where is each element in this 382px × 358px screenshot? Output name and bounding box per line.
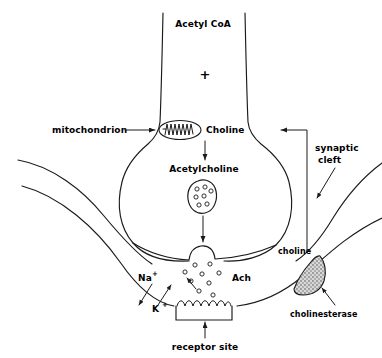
vesicle-transmitter-dot [205, 202, 209, 206]
cleft-transmitter-dot [208, 262, 212, 266]
vesicle-transmitter-dot [209, 189, 213, 193]
plus-sign-label: + [200, 67, 211, 82]
sodium-charge-label: + [152, 270, 158, 278]
cleft-transmitter-dot [211, 293, 215, 297]
vesicle-transmitter-dot [194, 195, 198, 199]
choline-label: Choline [206, 125, 245, 135]
vesicle-transmitter-dot [195, 187, 199, 191]
potassium-charge-label: + [162, 301, 168, 309]
cleft-transmitter-dot [207, 281, 211, 285]
potassium-label: K [152, 304, 160, 314]
cleft-transmitter-group [183, 262, 221, 297]
synaptic-cleft-label-line2: cleft [318, 155, 342, 165]
synapse-diagram: mitochondrion Acetyl CoA + Choline Acety… [0, 0, 382, 358]
choline-cleft-label: choline [278, 247, 312, 256]
mitochondrion-label: mitochondrion [52, 125, 127, 135]
ach-label: Ach [232, 273, 251, 283]
receptor-site-label: receptor site [172, 342, 239, 352]
cholinesterase-label: cholinesterase [290, 310, 358, 319]
presynaptic-right-membrane [224, 13, 292, 261]
synaptic-cleft-leader-arrow [317, 168, 335, 198]
potassium-efflux: K + [152, 285, 171, 314]
vesicle-transmitter-dot [202, 194, 206, 198]
mitochondrion-icon [159, 121, 201, 140]
receptor-site [176, 301, 232, 320]
synaptic-vesicle [188, 180, 217, 213]
acetyl-coa-label: Acetyl CoA [175, 19, 231, 29]
cleft-transmitter-dot [197, 289, 201, 293]
cleft-transmitter-dot [217, 271, 221, 275]
synaptic-cleft-label-line1: synaptic [315, 143, 359, 153]
sodium-label: Na [138, 273, 152, 283]
synapse-diagram-page: mitochondrion Acetyl CoA + Choline Acety… [0, 0, 382, 358]
postsynaptic-membrane-upper [22, 186, 174, 306]
cleft-transmitter-dot [193, 263, 197, 267]
vesicle-transmitter-dot [197, 203, 201, 207]
vesicle-transmitter-dot [203, 185, 207, 189]
cholinesterase-enzyme [294, 256, 325, 295]
cleft-transmitter-dot [183, 270, 187, 274]
acetylcholine-label: Acetylcholine [169, 164, 239, 174]
presynaptic-outer-left-curve [18, 160, 152, 264]
cleft-transmitter-dot [200, 272, 204, 276]
cholinesterase-leader-arrow [322, 288, 335, 305]
